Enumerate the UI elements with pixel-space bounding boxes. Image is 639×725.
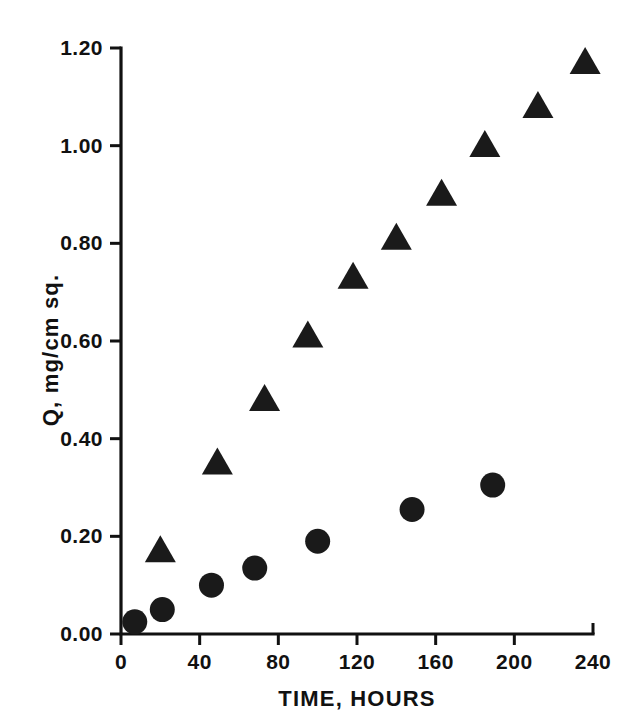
x-tick-label-200: 200	[496, 650, 533, 673]
data-markers	[122, 47, 600, 634]
data-point-circle	[305, 529, 330, 554]
y-tick-label-0.20: 0.20	[60, 524, 103, 547]
data-point-triangle	[426, 179, 457, 206]
data-point-circle	[480, 473, 505, 498]
y-tick-label-0.80: 0.80	[60, 231, 103, 254]
x-tick-label-0: 0	[115, 650, 127, 673]
y-axis-title: Q, mg/cm sq.	[38, 274, 63, 427]
data-point-triangle	[522, 91, 553, 118]
data-point-triangle	[570, 47, 601, 74]
data-point-circle	[199, 573, 224, 598]
x-tick-label-120: 120	[339, 650, 376, 673]
data-point-circle	[400, 497, 425, 522]
data-point-triangle	[202, 447, 233, 474]
y-tick-label-1.20: 1.20	[60, 36, 103, 59]
x-tick-label-240: 240	[575, 650, 612, 673]
y-tick-label-0.00: 0.00	[60, 622, 103, 645]
x-tick-label-80: 80	[266, 650, 290, 673]
y-tick-label-1.00: 1.00	[60, 134, 103, 157]
axes	[110, 48, 593, 634]
data-point-circle	[242, 556, 267, 581]
data-point-triangle	[469, 130, 500, 157]
x-axis-tick-labels: 04080120160200240	[115, 650, 611, 673]
data-point-triangle	[338, 262, 369, 289]
y-axis-tick-labels: 0.000.200.400.600.801.001.20	[60, 36, 103, 645]
y-tick-label-0.40: 0.40	[60, 427, 103, 450]
y-tick-label-0.60: 0.60	[60, 329, 103, 352]
axis-spine	[121, 48, 593, 634]
data-point-triangle	[381, 223, 412, 250]
scatter-plot: 0.000.200.400.600.801.001.20 04080120160…	[0, 0, 639, 725]
x-axis-title: TIME, HOURS	[278, 686, 435, 711]
chart-figure: 0.000.200.400.600.801.001.20 04080120160…	[0, 0, 639, 725]
data-point-circle	[150, 597, 175, 622]
data-point-circle	[122, 609, 147, 634]
data-point-triangle	[292, 320, 323, 347]
data-point-triangle	[145, 535, 176, 562]
data-point-triangle	[249, 384, 280, 411]
tick-marks	[110, 146, 514, 645]
x-tick-label-40: 40	[187, 650, 211, 673]
x-tick-label-160: 160	[417, 650, 454, 673]
